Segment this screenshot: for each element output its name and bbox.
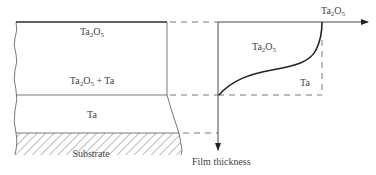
y-axis-label: Film thickness — [192, 157, 251, 167]
diagram-graphics — [0, 0, 376, 175]
film-cross-section — [14, 22, 182, 155]
x-axis-label: Ta2O5 — [321, 6, 345, 16]
region-label-ta: Ta — [300, 78, 310, 88]
film-left-edge — [14, 22, 17, 155]
region-label-ta2o5: Ta2O5 — [252, 42, 276, 52]
composition-axes — [218, 22, 368, 150]
film-composition-diagram: Ta2O5 Ta2O5 + Ta Ta Substrate Ta2O5 Ta2O… — [0, 0, 376, 175]
layer-label-substrate: Substrate — [72, 149, 109, 159]
layer-label-ta2o5: Ta2O5 — [80, 27, 104, 37]
layer-label-ta2o5-ta: Ta2O5 + Ta — [70, 76, 114, 86]
layer-label-ta: Ta — [87, 110, 97, 120]
